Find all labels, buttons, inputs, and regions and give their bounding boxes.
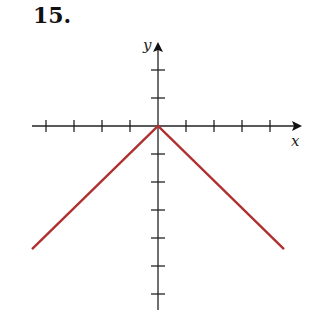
x-axis-label: x [291, 132, 300, 150]
graph: x y [0, 0, 318, 323]
y-axis-label: y [142, 36, 152, 54]
